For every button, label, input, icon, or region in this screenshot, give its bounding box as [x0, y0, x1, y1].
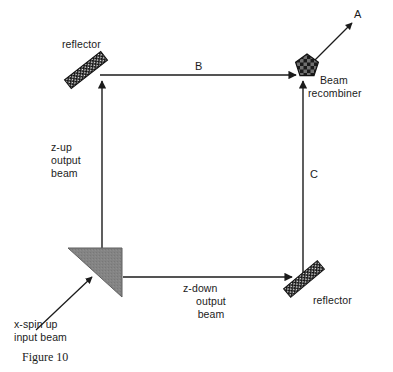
- figure-10-diagram: reflector B A Beam recombiner z-up outpu…: [0, 0, 393, 372]
- label-z-down-line1: z-down: [183, 282, 239, 295]
- label-reflector-bottom: reflector: [313, 294, 352, 307]
- label-path-b: B: [195, 60, 202, 73]
- label-input-line2: input beam: [14, 331, 67, 344]
- label-reflector-top: reflector: [62, 38, 101, 51]
- label-path-a: A: [354, 8, 361, 21]
- beam-recombiner-pentagon: [296, 54, 319, 76]
- beam-a-arrow: [313, 23, 352, 62]
- label-input-line1: x-spin up: [14, 318, 58, 331]
- label-z-up-line2: output: [51, 154, 81, 167]
- figure-caption: Figure 10: [22, 350, 68, 365]
- label-beam-recombiner-line1: Beam: [320, 74, 348, 87]
- label-z-up-line1: z-up: [51, 141, 72, 154]
- label-path-c: C: [310, 168, 318, 181]
- beam-splitter-triangle: [68, 248, 122, 297]
- reflector-top-left: [64, 52, 107, 89]
- label-z-up-line3: beam: [51, 167, 78, 180]
- reflector-bottom-right: [284, 261, 325, 298]
- label-z-down-line3: beam: [191, 308, 231, 321]
- label-beam-recombiner-line2: recombiner: [308, 87, 362, 100]
- label-z-down-line2: output: [189, 295, 233, 308]
